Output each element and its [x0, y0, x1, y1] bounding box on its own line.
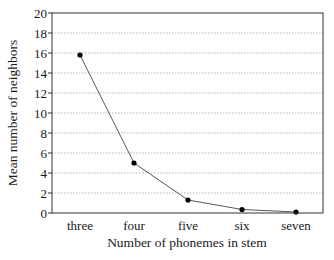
- y-tick-label: 8: [41, 126, 48, 141]
- y-gridlines: [52, 33, 323, 193]
- x-tick-label: six: [234, 218, 250, 233]
- x-axis-tick-labels: threefourfivesixseven: [67, 218, 311, 233]
- y-tick-label: 20: [34, 6, 47, 21]
- y-tick-label: 12: [34, 86, 47, 101]
- y-tick-label: 18: [34, 26, 47, 41]
- y-axis-ticks: 02468101214161820: [34, 6, 52, 221]
- x-tick-label: four: [123, 218, 145, 233]
- y-tick-label: 2: [41, 186, 48, 201]
- x-tick-label: seven: [281, 218, 311, 233]
- data-point: [293, 209, 298, 214]
- y-axis-title: Mean number of neighbors: [5, 40, 20, 187]
- data-point: [131, 160, 136, 165]
- x-tick-label: three: [67, 218, 93, 233]
- data-point: [77, 52, 82, 57]
- y-tick-label: 4: [41, 166, 48, 181]
- x-tick-label: five: [178, 218, 198, 233]
- y-tick-label: 16: [34, 46, 48, 61]
- data-point: [185, 197, 190, 202]
- y-tick-label: 0: [41, 206, 48, 221]
- y-tick-label: 14: [34, 66, 48, 81]
- x-axis-title: Number of phonemes in stem: [107, 235, 267, 250]
- data-point: [239, 207, 244, 212]
- line-chart: 02468101214161820 threefourfivesixseven …: [0, 0, 334, 260]
- y-tick-label: 6: [41, 146, 48, 161]
- y-tick-label: 10: [34, 106, 47, 121]
